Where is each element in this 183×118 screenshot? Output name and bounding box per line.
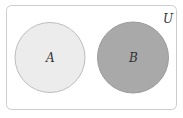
- universe-label: U: [163, 12, 174, 26]
- set-a-label: A: [45, 51, 55, 65]
- venn-diagram: U A B: [0, 0, 183, 118]
- set-b-label: B: [128, 51, 138, 65]
